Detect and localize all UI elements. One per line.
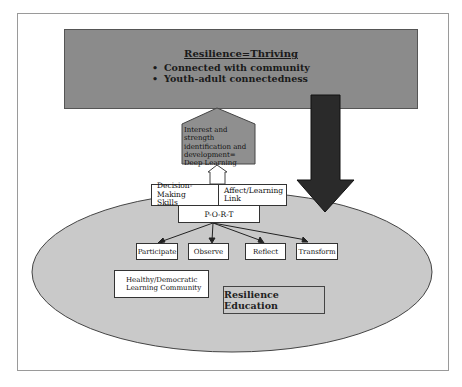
pentagon-line: identification and: [184, 143, 254, 151]
pentagon-line: development=: [184, 151, 254, 159]
pentagon-line: Deep Learning: [184, 159, 254, 167]
healthy-democratic-community-box: Healthy/Democratic Learning Community: [114, 270, 209, 298]
decision-making-skills-box: Decision-Making Skills: [151, 184, 219, 206]
reflect-box: Reflect: [245, 243, 286, 260]
participate-box: Participate: [136, 243, 178, 260]
observe-box: Observe: [188, 243, 229, 260]
pentagon-line: Interest and strength: [184, 126, 254, 143]
learning-community-label: Learning Community: [126, 284, 201, 292]
hollow-up-arrow-icon: [208, 165, 227, 184]
healthy-democratic-label: Healthy/Democratic: [126, 276, 201, 284]
port-box: P-O-R-T: [178, 205, 260, 223]
transform-box: Transform: [296, 243, 338, 260]
affect-learning-link-box: Affect/Learning Link: [218, 184, 287, 206]
resilience-education-label: Resilience Education: [223, 286, 325, 314]
deep-learning-text: Interest and strength identification and…: [184, 126, 254, 167]
decision-making-label: Decision-Making: [157, 182, 218, 199]
link-label: Link: [224, 195, 283, 204]
down-arrow-icon: [297, 95, 354, 212]
